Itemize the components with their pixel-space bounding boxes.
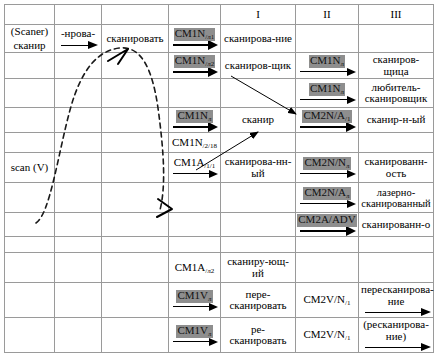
cm-label: CM1Nл [309,83,345,96]
table-row: CM1Vл пере- сканировать CM2V/N/1 переска… [5,283,434,318]
col3-cell-6: лазерно- сканированный [359,183,434,213]
verb-cell: сканировать [102,25,169,53]
blank-verb-7 [102,213,169,237]
scan-v-cell: scan (V) [5,153,55,183]
cm-cell-a-5: CM1A/1/1 [169,153,221,183]
table-row: CM1N/л2 сканиров-щик CM1Nл сканиров-щица [5,53,434,79]
col1-cell-7 [221,213,296,237]
cm-label: CM1A/1/1 [173,157,216,170]
cm-arrow-icon [169,123,220,132]
col3-label: (ресканирова- ние) [359,318,433,343]
col1-cell-4 [221,133,296,153]
blank-left-3 [5,108,55,133]
blank-left-9 [5,253,55,283]
col3-arrow-icon [359,343,433,352]
col3-cell-4 [359,133,434,153]
cm-arrow-icon [169,338,220,347]
cm-label: CM1Vл [176,325,212,338]
cm-cell-b-11: CM2V/N/1 [296,318,359,353]
cm-cell-b-8 [296,237,359,253]
col1-label: сканир [221,113,295,127]
table-row: CM1A/л2 сканиру-ющ-ий [5,253,434,283]
blank-affix-9 [55,253,102,283]
col1-cell-1: сканиров-щик [221,53,296,79]
cm-label: CM2N/Aл [303,187,350,200]
col3-label: сканиров-щица [359,53,433,78]
blank-affix-8 [55,237,102,253]
blank-verb-6 [102,183,169,213]
cm-arrow-icon [296,68,358,77]
table-row: CM2N/Aл лазерно- сканированный [5,183,434,213]
blank-left-11 [5,318,55,353]
col3-cell-1: сканиров-щица [359,53,434,79]
col1-cell-6 [221,183,296,213]
col1-label: ре- сканировать [221,323,295,348]
header-column-III: III [359,5,434,25]
table-row: scan (V) CM1A/1/1 сканирова-нн-ый CM2N/N… [5,153,434,183]
col1-cell-0: сканирова-ние [221,25,296,53]
blank-verb-5 [102,153,169,183]
cm-arrow-icon [296,96,358,105]
col1-label: пере- сканировать [221,288,295,313]
blank-affix-1 [55,53,102,79]
cm-cell-a-3: CM1Nл [169,108,221,133]
blank-verb-4 [102,133,169,153]
blank-verb-9 [102,253,169,283]
scan-v-label: scan (V) [5,161,54,175]
blank-verb-8 [102,237,169,253]
cm-cell-a-0: CM1N/л1 [169,25,221,53]
col3-label: пересканирова- ние [359,283,433,308]
blank-left-7 [5,213,55,237]
cm-label: CM2V/N/1 [302,329,351,342]
col3-label: сканир-н-ый [359,113,433,127]
cm-label: CM2A/ADV [297,214,356,227]
cm-cell-b-4 [296,133,359,153]
col3-cell-9 [359,253,434,283]
blank-affix-11 [55,318,102,353]
cm-cell-b-6: CM2N/Aл [296,183,359,213]
cm-cell-a-7 [169,213,221,237]
blank-affix-7 [55,213,102,237]
col3-cell-7: сканированн-о [359,213,434,237]
figure-canvas: I II III (Scaner) сканир -нрова- сканиро… [0,4,437,340]
blank-verb-11 [102,318,169,353]
table-row: CM2A/ADV сканированн-о [5,213,434,237]
col3-cell-8 [359,237,434,253]
cm-cell-a-4: CM1N/2/18 [169,133,221,153]
table-row: (Scaner) сканир -нрова- сканировать CM1N… [5,25,434,53]
cm-label: CM2N/Nл [303,157,350,170]
col3-label: сканированн- ость [359,155,433,180]
cm-cell-b-5: CM2N/Nл [296,153,359,183]
header-blank-3 [169,5,221,25]
cm-arrow-icon [169,170,220,179]
col3-label: лазерно- сканированный [359,186,433,210]
col3-cell-11: (ресканирова- ние) [359,318,434,353]
cm-label: CM2V/N/1 [302,294,351,307]
cm-cell-b-10: CM2V/N/1 [296,283,359,318]
cm-cell-a-11: CM1Vл [169,318,221,353]
blank-left-10 [5,283,55,318]
blank-verb-3 [102,108,169,133]
cm-arrow-icon [296,227,358,236]
blank-left-2 [5,79,55,108]
cm-label: CM1Nл [176,110,212,123]
affix-label: -нрова- [55,27,101,41]
blank-affix-4 [55,133,102,153]
header-column-I: I [221,5,296,25]
source-line-1: (Scaner) [5,25,54,39]
col1-cell-2 [221,79,296,108]
cm-cell-b-2: CM1Nл [296,79,359,108]
cm-label: CM1N/2/18 [171,137,218,150]
col1-label: сканирова-нн-ый [221,155,295,180]
cm-label: CM2N/A/1 [302,110,351,123]
col3-cell-5: сканированн- ость [359,153,434,183]
col3-cell-10: пересканирова- ние [359,283,434,318]
cm-cell-b-0 [296,25,359,53]
blank-left-4 [5,133,55,153]
cm-cell-b-7: CM2A/ADV [296,213,359,237]
blank-verb-1 [102,53,169,79]
col3-label: сканированн-о [359,218,433,232]
blank-affix-2 [55,79,102,108]
blank-affix-6 [55,183,102,213]
derivation-table: I II III (Scaner) сканир -нрова- сканиро… [4,4,434,353]
